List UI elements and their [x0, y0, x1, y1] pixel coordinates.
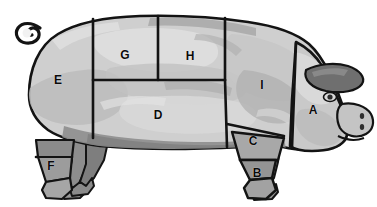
pig-cuts-diagram: A B C D E F G H I [0, 0, 377, 207]
cut-label-b: B [253, 167, 262, 179]
pig-illustration [0, 0, 377, 207]
cut-label-i: I [260, 79, 263, 91]
cut-label-a: A [309, 104, 318, 116]
cut-label-c: C [249, 135, 258, 147]
cut-label-d: D [154, 109, 163, 121]
cut-label-e: E [54, 74, 62, 86]
cut-label-h: H [186, 50, 195, 62]
pig-eye [324, 93, 337, 102]
cut-label-g: G [120, 49, 129, 61]
pig-tail [16, 24, 40, 44]
rear-hock-shape [36, 140, 74, 199]
cut-label-f: F [47, 160, 54, 172]
